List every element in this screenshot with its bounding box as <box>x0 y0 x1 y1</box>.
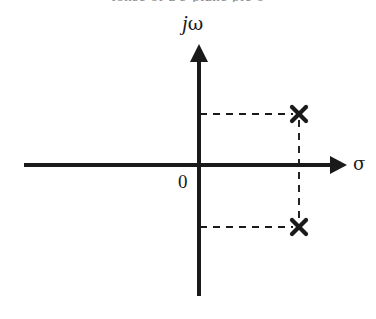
origin-label: 0 <box>178 172 188 191</box>
pole-zero-figure: ionse of a s-plane ple o jω σ 0 <box>0 0 376 319</box>
j-omega-axis-arrowhead <box>190 44 208 62</box>
plot-canvas <box>0 0 376 319</box>
j-omega-axis-label: jω <box>182 13 203 34</box>
sigma-axis-label: σ <box>353 155 365 173</box>
pole-upper-marker <box>292 107 306 121</box>
sigma-axis-arrowhead <box>330 156 347 174</box>
j-omega-label-omega: ω <box>188 12 204 34</box>
pole-lower-marker <box>292 220 306 234</box>
